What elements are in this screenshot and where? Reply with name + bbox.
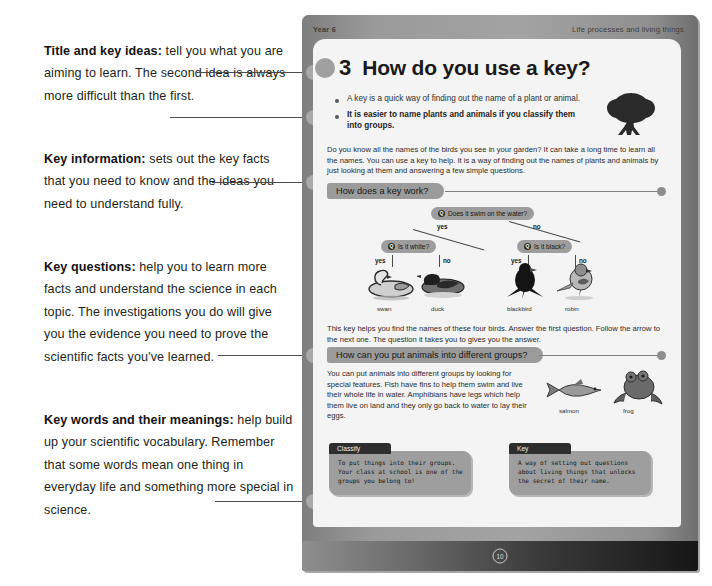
annotation-label: Key information: [44,152,146,166]
section-heading-text: How does a key work? [336,186,428,196]
glossary-definition: A way of setting out questions about liv… [509,451,651,495]
section-heading-text: How can you put animals into different g… [336,350,527,360]
key-idea-text: It is easier to name plants and animals … [347,110,590,131]
key-idea-item: It is easier to name plants and animals … [335,110,590,131]
bullet-icon [335,99,339,103]
glossary-term: Key [509,443,571,454]
blackbird-illustration [501,263,551,301]
annotation-column: Title and key ideas: tell you what you a… [0,0,300,586]
section-rule [539,355,659,356]
question-text: Is it white? [398,243,429,250]
running-head-right: Life processes and living things [572,25,684,34]
section-rule [445,191,659,192]
page-number: 10 [493,549,508,564]
animal-label-frog: frog [623,407,634,414]
groups-paragraph: You can put animals into different group… [327,369,532,422]
animal-label-salmon: salmon [559,407,579,414]
branch-label-no-left: no [443,257,451,264]
key-right-question: Q Is it black? [517,240,572,253]
annotation-label: Key words and their meanings: [44,413,234,427]
annotation-label: Key questions: [44,260,136,274]
duck-illustration [417,269,469,301]
title-bullet-icon [315,58,335,78]
annotation-label: Title and key ideas: [44,44,162,58]
connector-line-key-ideas [170,117,304,118]
animal-label-swan: swan [377,305,391,312]
key-caption: This key helps you find the names of the… [327,324,667,345]
glossary-term: Classify [329,443,391,454]
frog-illustration [609,369,665,409]
key-left-question: Q Is it white? [381,240,436,253]
glossary-box-classify: Classify To put things into their groups… [329,443,471,495]
intro-paragraph: Do you know all the names of the birds y… [327,145,667,177]
annotation-title-and-key-ideas: Title and key ideas: tell you what you a… [44,40,294,107]
identification-key-diagram: Q Does it swim on the water? yes no Q Is… [339,207,659,322]
animal-label-robin: robin [565,305,579,312]
key-ideas-list: A key is a quick way of finding out the … [335,94,590,137]
key-root-question: Q Does it swim on the water? [431,207,534,220]
glossary-definition: To put things into their groups. Your cl… [329,451,471,495]
glossary-box-key: Key A way of setting out questions about… [509,443,651,495]
question-text: Is it black? [534,243,565,250]
annotation-key-questions: Key questions: help you to learn more fa… [44,256,294,368]
section-heading-how-does-a-key-work: How does a key work? [327,183,444,199]
textbook-page: Year 6 Life processes and living things … [302,15,698,571]
tree-icon [605,91,657,137]
swan-illustration [361,267,417,301]
salmon-illustration [545,377,607,403]
page-footer: 10 [302,541,698,571]
section-end-dot-icon [657,351,666,360]
leaf-stem-1 [392,255,393,267]
bullet-icon [335,115,339,119]
chapter-number: 3 [339,55,351,81]
connector-line-key-questions [218,355,304,356]
key-idea-item: A key is a quick way of finding out the … [335,94,590,104]
connector-line-title [196,72,304,73]
animal-label-duck: duck [431,305,444,312]
connector-line-key-information [212,182,304,183]
robin-illustration [553,263,605,301]
key-idea-text: A key is a quick way of finding out the … [347,94,580,104]
page-content-card: 3 How do you use a key? A key is a quick… [313,39,681,527]
annotation-text: help you to learn more facts and underst… [44,260,277,364]
question-text: Does it swim on the water? [448,210,527,217]
page-title: 3 How do you use a key? [325,55,590,81]
branch-label-yes-left: yes [375,257,386,264]
leaf-stem-2 [439,255,440,267]
running-head-left: Year 6 [313,25,336,34]
connector-line-key-words [215,501,304,502]
question-marker-icon: Q [438,210,445,217]
question-marker-icon: Q [524,243,531,250]
branch-label-no-root: no [533,223,541,230]
branch-label-yes-root: yes [437,223,448,230]
chapter-title: How do you use a key? [362,56,590,80]
animal-label-blackbird: blackbird [507,305,532,312]
annotation-key-words: Key words and their meanings: help build… [44,409,294,521]
section-heading-how-can-you-put-animals-into-groups: How can you put animals into different g… [327,347,543,363]
section-end-dot-icon [657,187,666,196]
question-marker-icon: Q [388,243,395,250]
